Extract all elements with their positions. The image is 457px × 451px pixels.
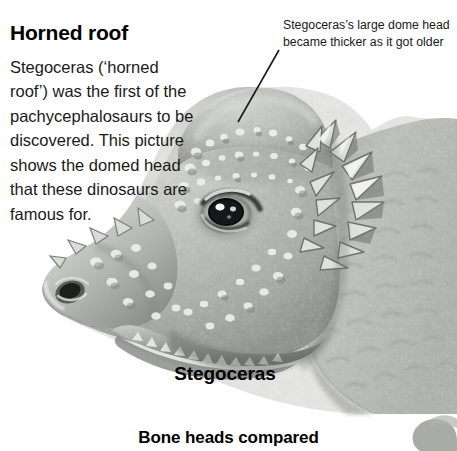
specimen-name-label: Stegoceras — [0, 363, 450, 385]
article-body-text: Stegoceras (‘horned roof’) was the first… — [10, 55, 200, 227]
eye-highlight — [215, 203, 224, 210]
figure-caption: Bone heads compared — [0, 428, 457, 448]
page-root: Horned roof Stegoceras (‘horned roof’) w… — [0, 0, 457, 451]
page-title: Horned roof — [10, 21, 128, 45]
callout-annotation-text: Stegoceras’s large dome head became thic… — [283, 17, 453, 49]
